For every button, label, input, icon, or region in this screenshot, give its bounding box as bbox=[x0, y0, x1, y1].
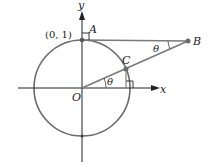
x-axis-arrow-icon bbox=[151, 85, 160, 91]
segment-ob bbox=[82, 41, 188, 88]
angle-label-b: θ bbox=[153, 43, 159, 54]
y-axis-label: y bbox=[77, 0, 85, 12]
angle-arc-o bbox=[104, 78, 106, 88]
angle-arc-b bbox=[168, 41, 170, 49]
point-a-dot bbox=[80, 38, 84, 42]
point-b-dot bbox=[186, 39, 191, 44]
point-a-label: A bbox=[88, 23, 97, 36]
unit-circle-diagram: y x (0, 1) A B C O θ θ bbox=[0, 0, 212, 165]
point-a-coord-label: (0, 1) bbox=[45, 29, 72, 40]
point-c-label: C bbox=[122, 54, 131, 67]
angle-label-o: θ bbox=[107, 76, 113, 87]
point-c-dot bbox=[124, 67, 129, 72]
x-axis-label: x bbox=[160, 83, 167, 96]
point-bottom-dot bbox=[81, 135, 84, 138]
origin-label: O bbox=[72, 91, 81, 104]
y-axis-arrow-icon bbox=[79, 11, 85, 20]
segment-ab bbox=[82, 40, 188, 41]
point-b-label: B bbox=[192, 35, 201, 48]
